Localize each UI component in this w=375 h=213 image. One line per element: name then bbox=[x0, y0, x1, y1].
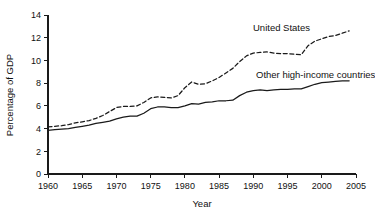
y-axis-title: Percentage of GDP bbox=[4, 54, 15, 136]
y-tick-label: 0 bbox=[36, 169, 41, 179]
y-axis: 02468101214 bbox=[31, 10, 48, 179]
y-tick-group: 02468101214 bbox=[31, 10, 48, 179]
x-tick-label: 1960 bbox=[38, 181, 58, 191]
x-tick-label: 2005 bbox=[346, 181, 366, 191]
x-tick-label: 1990 bbox=[243, 181, 263, 191]
x-axis: 1960196519701975198019851990199520002005 bbox=[38, 174, 366, 191]
x-tick-label: 2000 bbox=[312, 181, 332, 191]
x-tick-label: 1985 bbox=[209, 181, 229, 191]
y-tick-label: 10 bbox=[31, 56, 41, 66]
y-tick-label: 8 bbox=[36, 78, 41, 88]
x-tick-label: 1975 bbox=[141, 181, 161, 191]
y-tick-label: 2 bbox=[36, 147, 41, 157]
x-axis-title: Year bbox=[192, 198, 211, 209]
x-tick-label: 1995 bbox=[278, 181, 298, 191]
plot-series bbox=[48, 31, 349, 130]
x-tick-group: 1960196519701975198019851990199520002005 bbox=[38, 174, 366, 191]
y-tick-label: 12 bbox=[31, 33, 41, 43]
line-chart: 02468101214 1960196519701975198019851990… bbox=[0, 0, 375, 213]
y-tick-label: 14 bbox=[31, 10, 41, 20]
series-annotation-other-high-income-countries: Other high-income countries bbox=[256, 69, 375, 80]
x-tick-label: 1980 bbox=[175, 181, 195, 191]
series-annotation-united-states: United States bbox=[253, 22, 310, 33]
series-line-other-high-income-countries bbox=[48, 81, 349, 130]
y-tick-label: 6 bbox=[36, 101, 41, 111]
chart-container: 02468101214 1960196519701975198019851990… bbox=[0, 0, 375, 213]
x-tick-label: 1965 bbox=[72, 181, 92, 191]
x-tick-label: 1970 bbox=[106, 181, 126, 191]
y-tick-label: 4 bbox=[36, 124, 41, 134]
